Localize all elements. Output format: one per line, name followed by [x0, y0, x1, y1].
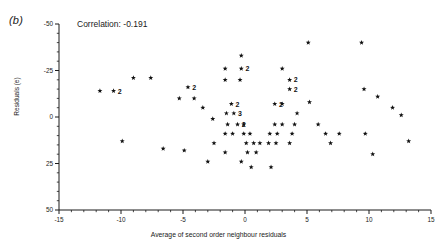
scatter-marker [247, 131, 252, 136]
scatter-marker [275, 131, 280, 136]
scatter-marker [230, 131, 235, 136]
x-axis-ticks: -15-10-5051015 [54, 210, 435, 223]
scatter-marker [257, 140, 262, 145]
marker-count-label: 2 [294, 86, 298, 93]
scatter-marker [245, 150, 250, 155]
svg-text:5: 5 [305, 216, 309, 223]
scatter-marker [97, 88, 102, 93]
scatter-marker [212, 140, 217, 145]
scatter-marker [272, 122, 277, 127]
scatter-marker [185, 85, 190, 90]
scatter-marker [235, 122, 240, 127]
scatter-marker [205, 159, 210, 164]
scatter-marker [223, 66, 228, 71]
scatter-marker [267, 131, 272, 136]
figure-panel-b: (b) Correlation: -0.191 Residuals (e) Av… [0, 0, 437, 249]
scatter-marker [266, 140, 271, 145]
scatter-marker [177, 96, 182, 101]
scatter-marker [231, 111, 236, 116]
scatter-marker [225, 122, 230, 127]
axis-lines [59, 24, 431, 210]
scatter-marker [280, 66, 285, 71]
svg-text:-50: -50 [44, 20, 54, 27]
scatter-marker [148, 75, 153, 80]
scatter-marker [241, 131, 246, 136]
scatter-marker [274, 140, 279, 145]
svg-text:50: 50 [46, 206, 54, 213]
scatter-marker [290, 131, 295, 136]
svg-text:25: 25 [46, 160, 54, 167]
svg-text:-10: -10 [116, 216, 126, 223]
y-axis-ticks: 50250-25-50 [44, 20, 59, 213]
scatter-marker [223, 77, 228, 82]
scatter-marker [287, 87, 292, 92]
scatter-marker [406, 139, 411, 144]
scatter-marker [375, 94, 380, 99]
scatter-marker [251, 140, 256, 145]
scatter-marker [229, 101, 234, 106]
scatter-marker [287, 140, 292, 145]
scatter-marker [316, 122, 321, 127]
scatter-marker [280, 122, 285, 127]
scatter-marker [307, 100, 312, 105]
scatter-marker [362, 87, 367, 92]
svg-text:-25: -25 [44, 67, 54, 74]
scatter-marker [244, 140, 249, 145]
scatter-marker [323, 131, 328, 136]
scatter-marker [249, 165, 254, 170]
scatter-marker [131, 75, 136, 80]
scatter-marker [239, 159, 244, 164]
scatter-marker [224, 111, 229, 116]
scatter-marker [390, 105, 395, 110]
svg-text:0: 0 [243, 216, 247, 223]
scatter-marker [192, 96, 197, 101]
svg-text:-5: -5 [180, 216, 186, 223]
scatter-marker [292, 122, 297, 127]
marker-count-label: 2 [294, 76, 298, 83]
marker-count-label: 2 [192, 84, 196, 91]
scatter-marker [238, 77, 243, 82]
scatter-marker [254, 150, 259, 155]
scatter-marker [111, 88, 116, 93]
scatter-marker [239, 66, 244, 71]
scatter-marker [182, 148, 187, 153]
scatter-marker [120, 139, 125, 144]
scatter-plot-canvas: 50250-25-50-15-10-5051015222232222 [0, 0, 437, 249]
scatter-marker [161, 146, 166, 151]
marker-count-label: 2 [245, 65, 249, 72]
scatter-marker [359, 40, 364, 45]
data-points: 222232222 [97, 40, 411, 169]
marker-count-label: 3 [238, 110, 242, 117]
svg-text:15: 15 [427, 216, 435, 223]
scatter-marker [210, 116, 215, 121]
scatter-marker [306, 40, 311, 45]
scatter-marker [399, 113, 404, 118]
scatter-marker [223, 150, 228, 155]
marker-count-label: 2 [236, 101, 240, 108]
scatter-marker [337, 131, 342, 136]
scatter-marker [287, 77, 292, 82]
scatter-marker [200, 105, 205, 110]
svg-text:0: 0 [49, 113, 53, 120]
scatter-marker [239, 53, 244, 58]
scatter-marker [295, 111, 300, 116]
scatter-marker [272, 101, 277, 106]
svg-text:10: 10 [365, 216, 373, 223]
scatter-marker [328, 140, 333, 145]
marker-count-label: 2 [118, 88, 122, 95]
svg-text:-15: -15 [54, 216, 64, 223]
scatter-marker [223, 131, 228, 136]
scatter-marker [370, 152, 375, 157]
scatter-marker [363, 131, 368, 136]
scatter-marker [269, 165, 274, 170]
